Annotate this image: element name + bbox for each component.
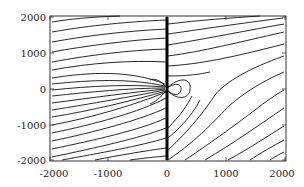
contour-lines-left [52,16,167,160]
x-tick-label: 0 [164,168,170,179]
x-tick-label: -2000 [40,168,69,179]
x-tick-label: -1000 [94,168,123,179]
y-tick-label: 0 [40,84,46,95]
x-tick-label: 2000 [269,168,294,179]
contour-plot: 2000 1000 0 -1000 -2000 -2000 -1000 0 10… [0,0,304,187]
y-tick-label: -1000 [17,120,46,131]
y-tick-label: 1000 [21,48,46,59]
contour-lines-right [150,16,284,160]
x-tick-label: 1000 [213,168,238,179]
y-tick-label: 2000 [21,12,46,23]
y-tick-label: -2000 [17,155,46,166]
